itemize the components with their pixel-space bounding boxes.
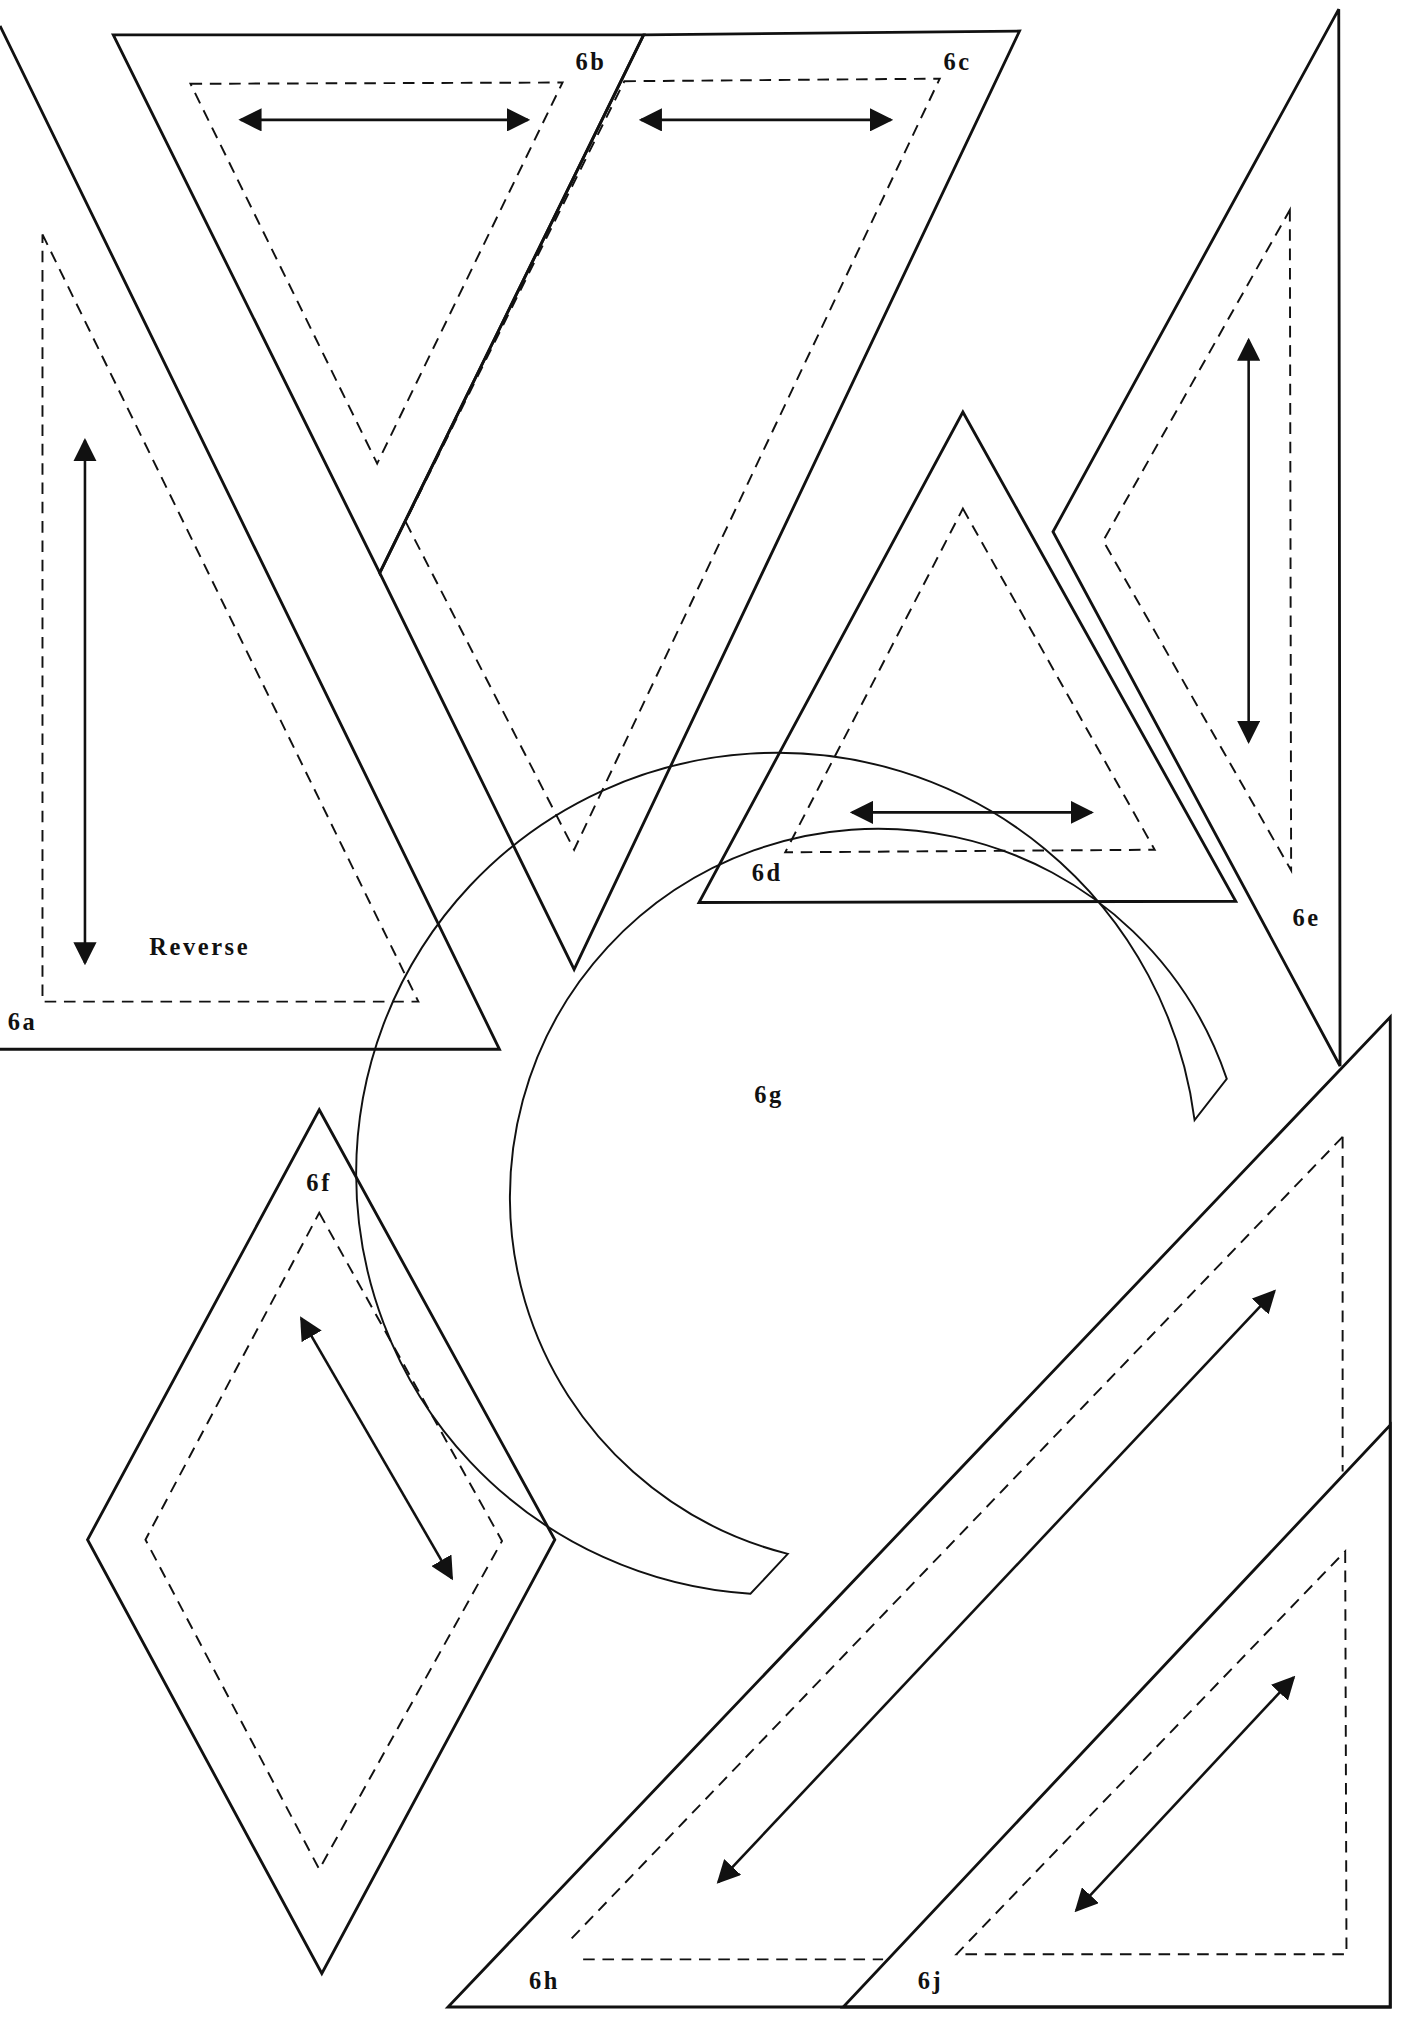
piece-6c: 6c — [380, 31, 1020, 969]
piece-6j: 6j — [843, 1425, 1390, 2007]
piece-label-6h: 6h — [529, 1967, 560, 1994]
piece-label-6a: 6a — [8, 1008, 38, 1035]
piece-6a: Reverse 6a — [0, 26, 499, 1049]
piece-label-6e: 6e — [1292, 904, 1320, 931]
grainline-arrow-icon — [301, 1318, 452, 1578]
piece-label-6c: 6c — [944, 48, 972, 75]
piece-6f: 6f — [88, 1110, 555, 1974]
piece-label-6f: 6f — [306, 1169, 332, 1196]
piece-6e: 6e — [1053, 9, 1340, 1066]
quilt-template-sheet: Reverse 6a 6b 6c 6d 6e 6f 6g — [0, 0, 1416, 2020]
piece-label-6d: 6d — [752, 859, 783, 886]
piece-6b: 6b — [113, 35, 643, 573]
reverse-label: Reverse — [149, 933, 250, 960]
piece-label-6b: 6b — [575, 48, 606, 75]
grainline-arrow-icon — [718, 1291, 1274, 1882]
piece-6h: 6h — [448, 1017, 1390, 2007]
grainline-arrow-icon — [1076, 1677, 1294, 1910]
piece-label-6j: 6j — [918, 1967, 944, 1994]
piece-6d: 6d — [699, 412, 1236, 902]
piece-label-6g: 6g — [754, 1081, 784, 1108]
piece-6g: 6g — [356, 753, 1227, 1594]
